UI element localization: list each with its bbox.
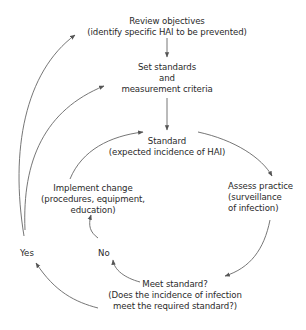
node-meet-standard: Meet standard? (Does the incidence of in…	[97, 279, 253, 313]
node-title: Review objectives	[82, 16, 252, 27]
node-subtitle: (expected incidence of HAI)	[107, 147, 227, 158]
node-implement-change: Implement change (procedures, equipment,…	[38, 183, 148, 217]
node-assess-practice: Assess practice (surveillance of infecti…	[228, 181, 306, 215]
branch-label-yes: Yes	[20, 248, 34, 259]
node-title: Set standards	[112, 62, 222, 73]
node-subtitle: meet the required standard?)	[97, 301, 253, 312]
node-subtitle: (surveillance	[228, 192, 306, 203]
node-subtitle: measurement criteria	[112, 84, 222, 95]
hai-prevention-cycle-diagram: Review objectives (identify specific HAI…	[0, 0, 306, 330]
arrow-no-to-implement	[90, 215, 98, 238]
node-standard: Standard (expected incidence of HAI)	[107, 136, 227, 158]
node-title: Assess practice	[228, 181, 306, 192]
node-subtitle: (procedures, equipment,	[38, 194, 148, 205]
node-subtitle: education)	[38, 205, 148, 216]
branch-label-no: No	[98, 248, 110, 259]
arrow-assess-to-meet	[225, 220, 270, 276]
node-subtitle: (identify specific HAI to be prevented)	[82, 27, 252, 38]
node-set-standards: Set standards and measurement criteria	[112, 62, 222, 96]
node-title: Implement change	[38, 183, 148, 194]
node-subtitle: and	[112, 73, 222, 84]
node-title: Meet standard?	[97, 279, 253, 290]
node-subtitle: of infection)	[228, 203, 306, 214]
node-title: Standard	[107, 136, 227, 147]
node-review-objectives: Review objectives (identify specific HAI…	[82, 16, 252, 38]
node-subtitle: (Does the incidence of infection	[97, 290, 253, 301]
arrow-meet-to-yes	[36, 263, 98, 308]
